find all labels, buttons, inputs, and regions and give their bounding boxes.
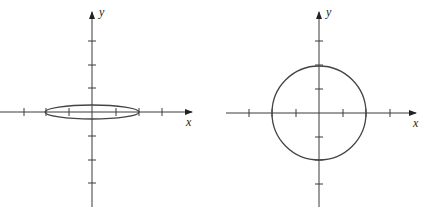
diagram-canvas: y x y x [0,0,422,213]
y-axis-label: y [325,5,332,19]
x-axis-label: x [185,115,192,129]
y-axis-label: y [98,5,105,19]
ellipse-plot: y x [0,5,192,207]
circle-plot: y x [226,5,419,207]
x-axis-label: x [412,116,419,130]
